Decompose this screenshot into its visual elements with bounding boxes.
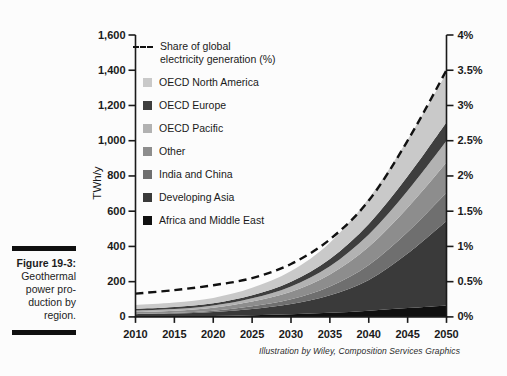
legend-label-africa-and-middle-east: Africa and Middle East bbox=[159, 214, 264, 226]
left-axis-tick-label: 1,200 bbox=[98, 99, 126, 111]
right-axis-tick-label: 0% bbox=[458, 310, 474, 322]
x-axis-tick-label: 2025 bbox=[240, 328, 264, 340]
legend-item-oecd-pacific: OECD Pacific bbox=[133, 123, 313, 133]
legend-item-other: Other bbox=[133, 146, 313, 156]
right-axis-tick-label: 2% bbox=[458, 169, 474, 181]
legend-item-developing-asia: Developing Asia bbox=[133, 192, 313, 202]
x-axis-tick-label: 2040 bbox=[357, 328, 381, 340]
left-axis-tick-label: 1,600 bbox=[98, 29, 126, 41]
legend-swatch-developing-asia bbox=[143, 193, 152, 202]
right-axis-tick-label: 3% bbox=[458, 99, 474, 111]
x-axis-tick-label: 2045 bbox=[395, 328, 419, 340]
chart-legend: Share of globalelectricity generation (%… bbox=[133, 40, 313, 238]
left-axis-tick-label: 600 bbox=[107, 205, 125, 217]
right-axis-tick-label: 2.5% bbox=[458, 134, 483, 146]
legend-swatch-oecd-europe bbox=[143, 101, 152, 110]
right-axis-tick-label: 1.5% bbox=[458, 205, 483, 217]
legend-label-india-and-china: India and China bbox=[159, 168, 233, 180]
left-axis-tick-label: 200 bbox=[107, 275, 125, 287]
dashed-line-icon bbox=[133, 46, 153, 48]
legend-label-oecd-pacific: OECD Pacific bbox=[159, 122, 223, 134]
legend-item-oecd-north-america: OECD North America bbox=[133, 77, 313, 87]
legend-item-africa-and-middle-east: Africa and Middle East bbox=[133, 215, 313, 225]
right-axis-tick-label: 1% bbox=[458, 240, 474, 252]
left-axis-title: TWh/y bbox=[91, 166, 103, 199]
legend-label-other: Other bbox=[159, 145, 185, 157]
legend-swatch-oecd-pacific bbox=[143, 124, 152, 133]
legend-swatch-other bbox=[143, 147, 152, 156]
attribution-credit: Illustration by Wiley, Composition Servi… bbox=[160, 346, 460, 356]
legend-swatch-india-and-china bbox=[143, 170, 152, 179]
right-axis-tick-label: 4% bbox=[458, 29, 474, 41]
legend-label-developing-asia: Developing Asia bbox=[159, 191, 234, 203]
right-axis-tick-label: 0.5% bbox=[458, 275, 483, 287]
x-axis-tick-label: 2010 bbox=[123, 328, 147, 340]
x-axis-tick-label: 2035 bbox=[318, 328, 342, 340]
legend-label-oecd-europe: OECD Europe bbox=[159, 99, 226, 111]
x-axis-tick-label: 2050 bbox=[434, 328, 458, 340]
figure-page: Figure 19-3: Geothermal power pro- ducti… bbox=[0, 0, 507, 376]
legend-swatch-africa-and-middle-east bbox=[143, 216, 152, 225]
left-axis-tick-label: 400 bbox=[107, 240, 125, 252]
left-axis-tick-label: 1,000 bbox=[98, 134, 126, 146]
right-axis-tick-label: 3.5% bbox=[458, 64, 483, 76]
x-axis-tick-label: 2015 bbox=[162, 328, 186, 340]
legend-swatch-oecd-north-america bbox=[143, 78, 152, 87]
x-axis-tick-label: 2020 bbox=[201, 328, 225, 340]
legend-item-share-line: Share of globalelectricity generation (%… bbox=[133, 40, 313, 66]
left-axis-tick-label: 0 bbox=[119, 310, 125, 322]
legend-label-oecd-north-america: OECD North America bbox=[159, 76, 259, 88]
left-axis-tick-label: 800 bbox=[107, 169, 125, 181]
legend-item-oecd-europe: OECD Europe bbox=[133, 100, 313, 110]
left-axis-tick-label: 1,400 bbox=[98, 64, 126, 76]
legend-item-india-and-china: India and China bbox=[133, 169, 313, 179]
legend-label-share-line: Share of globalelectricity generation (%… bbox=[160, 40, 276, 66]
x-axis-tick-label: 2030 bbox=[279, 328, 303, 340]
